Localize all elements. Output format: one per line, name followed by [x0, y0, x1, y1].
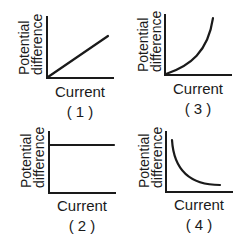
graph-3-xlabel: Current [173, 80, 224, 97]
graph-1-ylabel-line2: difference [29, 14, 45, 75]
graph-4: Potential difference Current ( 4 ) [136, 127, 233, 233]
graph-4-xlabel: Current [174, 196, 225, 213]
graph-3-ylabel-line2: difference [148, 11, 164, 72]
graph-2: Potential difference Current ( 2 ) [18, 127, 116, 234]
graph-1: Potential difference Current ( 1 ) [16, 14, 114, 120]
graph-1-caption: ( 1 ) [67, 103, 94, 120]
graph-2-caption: ( 2 ) [69, 217, 96, 234]
graph-4-ylabel-line2: difference [149, 127, 165, 188]
graph-4-caption: ( 4 ) [186, 216, 213, 233]
graph-2-xlabel: Current [57, 197, 108, 214]
graph-1-xlabel: Current [55, 83, 106, 100]
graph-1-line [48, 36, 108, 77]
graph-3-curve [166, 18, 213, 74]
graph-4-curve [172, 140, 220, 185]
graph-3: Potential difference Current ( 3 ) [135, 11, 232, 117]
graph-2-ylabel-line2: difference [31, 127, 47, 188]
graphs-figure: Potential difference Current ( 1 ) Poten… [0, 0, 247, 248]
graph-3-caption: ( 3 ) [185, 100, 212, 117]
